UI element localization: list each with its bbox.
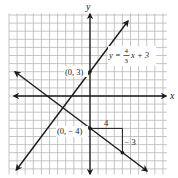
label-rise: − 3 xyxy=(125,137,136,147)
point-4-neg7 xyxy=(121,151,125,155)
equation-numerator: 4 xyxy=(125,47,129,55)
label-point-0-3: (0, 3) xyxy=(65,67,84,77)
label-run: 4 xyxy=(104,118,109,128)
equation-rest: x + 3 xyxy=(130,50,149,60)
point-0-3 xyxy=(88,70,92,74)
point-0-neg4 xyxy=(88,127,92,131)
grid xyxy=(9,13,167,174)
x-axis-label: x xyxy=(169,90,175,101)
equation-denominator: 3 xyxy=(125,57,129,65)
coordinate-plane: x y y = 4 3 x + 3 (0, 3) (0, − 4) 4 − 3 xyxy=(0,0,178,178)
label-point-0-neg4: (0, − 4) xyxy=(57,126,82,136)
equation-lhs: y = xyxy=(108,50,121,60)
y-axis-label: y xyxy=(85,1,91,12)
line-slope-neg-3-4 xyxy=(15,72,147,171)
